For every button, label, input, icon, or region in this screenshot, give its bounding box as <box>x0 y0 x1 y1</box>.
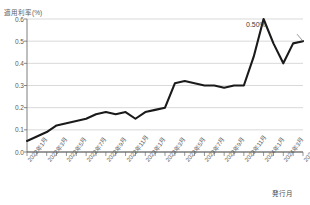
y-axis-tick-label: 0.6 <box>2 16 24 23</box>
interest-rate-line-chart: 適用利率(%) 0.00.10.20.30.40.50.6 2022年1月202… <box>0 0 310 205</box>
y-axis-tick-label: 0.0 <box>2 149 24 156</box>
y-axis-tick-label: 0.5 <box>2 38 24 45</box>
y-axis-tick-label: 0.1 <box>2 126 24 133</box>
y-axis-tick-label: 0.2 <box>2 104 24 111</box>
annotation-leader-line <box>297 34 303 41</box>
y-axis-tick-label: 0.4 <box>2 60 24 67</box>
y-axis-tick-label: 0.3 <box>2 82 24 89</box>
plot-area <box>0 0 310 205</box>
data-series-line <box>27 19 303 141</box>
x-axis-title: 発行月 <box>272 188 293 198</box>
value-annotation: 0.50% <box>246 21 266 28</box>
